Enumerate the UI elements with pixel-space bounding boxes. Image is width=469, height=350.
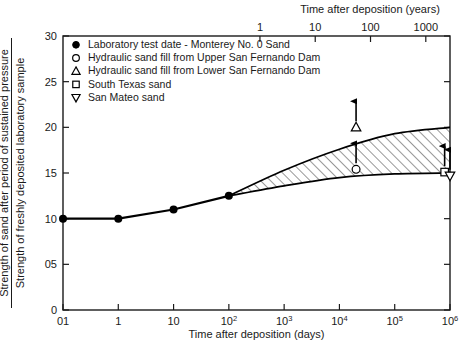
x-tick-label-0: 01 xyxy=(57,315,69,327)
x-tick-label-2: 10 xyxy=(167,315,179,327)
x-tick-label-1: 1 xyxy=(115,315,121,327)
x-tick-label-top-2: 100 xyxy=(361,21,379,33)
y-tick-label-1: 05 xyxy=(45,258,57,270)
legend-label-2: Hydraulic sand fill from Lower San Ferna… xyxy=(88,64,321,76)
y-tick-label-0: 0 xyxy=(51,304,57,316)
legend-label-4: San Mateo sand xyxy=(88,91,165,103)
legend-label-0: Laboratory test date - Monterey No. 0 Sa… xyxy=(88,38,290,50)
y-tick-label-3: 15 xyxy=(45,167,57,179)
y-axis-title-denominator: Strength of freshly deposited laboratory… xyxy=(14,58,26,289)
x-tick-label-top-1: 10 xyxy=(309,21,321,33)
marker-open-circle xyxy=(352,165,360,173)
data-point-marker xyxy=(170,206,178,214)
y-axis-title-numerator: Strength of sand after period of sustain… xyxy=(0,49,10,297)
x-axis-title-top: Time after deposition (years) xyxy=(300,3,440,15)
x-tick-label-top-0: 1 xyxy=(257,21,263,33)
data-point-marker xyxy=(114,215,122,223)
legend-label-1: Hydraulic sand fill from Upper San Ferna… xyxy=(88,51,321,63)
figure-container: 01110102103104105106 0051015202530 11010… xyxy=(0,0,469,350)
marker-filled-circle xyxy=(73,41,80,48)
y-tick-label-6: 30 xyxy=(45,30,57,42)
legend-label-3: South Texas sand xyxy=(88,78,171,90)
x-tick-label-top-3: 1000 xyxy=(414,21,438,33)
sand-strength-vs-time-chart: 01110102103104105106 0051015202530 11010… xyxy=(0,0,469,350)
data-point-marker xyxy=(59,215,67,223)
y-tick-label-5: 25 xyxy=(45,76,57,88)
y-tick-label-2: 10 xyxy=(45,213,57,225)
y-tick-label-4: 20 xyxy=(45,121,57,133)
marker-open-square xyxy=(73,81,79,87)
marker-open-circle xyxy=(73,55,80,62)
x-axis-title: Time after deposition (days) xyxy=(189,328,325,340)
